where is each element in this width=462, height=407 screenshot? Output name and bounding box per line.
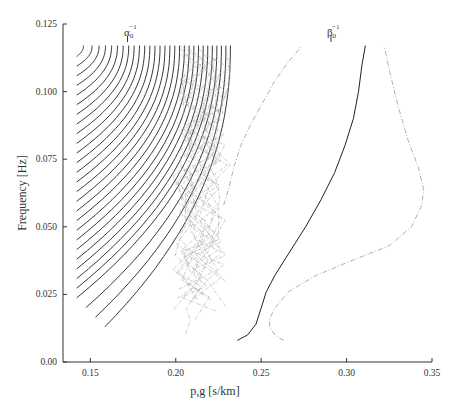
dispersion-chart: 0.000.0250.0500.0750.1000.125 0.150.200.… — [0, 0, 462, 407]
svg-text:β0−1: β0−1 — [327, 23, 340, 40]
x-tick-label: 0.30 — [338, 368, 355, 378]
x-axis-title: p,g [s/km] — [190, 384, 239, 398]
x-tick-label: 0.35 — [424, 368, 441, 378]
phase-mode-curve — [77, 46, 140, 144]
phase-mode-curve — [77, 46, 194, 250]
group-slowness-fundamental-S-curve — [270, 46, 424, 341]
phase-mode-curve — [77, 46, 112, 96]
axes: 0.000.0250.0500.0750.1000.125 0.150.200.… — [36, 19, 441, 378]
y-tick-label: 0.025 — [36, 289, 58, 299]
x-tick-label: 0.15 — [82, 368, 99, 378]
group-slowness-left-S-curve — [224, 46, 303, 206]
phase-mode-curve — [77, 46, 92, 67]
plot-curves — [77, 46, 424, 341]
phase-mode-curve — [77, 46, 99, 76]
y-tick-label: 0.00 — [40, 357, 57, 367]
y-ticks: 0.000.0250.0500.0750.1000.125 — [36, 19, 67, 367]
phase-mode-curve — [77, 46, 84, 57]
x-tick-label: 0.20 — [167, 368, 184, 378]
y-tick-label: 0.100 — [36, 87, 58, 97]
x-ticks: 0.150.200.250.300.35 — [82, 358, 441, 378]
phase-mode-curve — [77, 46, 208, 279]
y-axis-title: Frequency [Hz] — [15, 155, 29, 231]
phase-mode-curve — [77, 46, 165, 192]
svg-text:α0−1: α0−1 — [124, 23, 137, 40]
beta0-inverse-annotation: β0−1 — [327, 23, 340, 42]
phase-mode-curve — [77, 46, 145, 153]
alpha0-inverse-annotation: α0−1 — [124, 23, 137, 42]
y-tick-label: 0.075 — [36, 154, 58, 164]
x-tick-label: 0.25 — [253, 368, 270, 378]
y-tick-label: 0.050 — [36, 222, 58, 232]
y-tick-label: 0.125 — [36, 19, 58, 29]
phase-slowness-fundamental-S-curve — [237, 46, 365, 341]
phase-mode-curve — [105, 46, 230, 327]
